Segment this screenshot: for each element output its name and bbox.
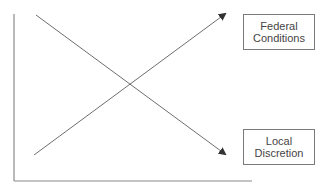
federal-label-line1: Federal (260, 20, 297, 32)
federal-conditions-box: Federal Conditions (243, 14, 315, 50)
local-discretion-box: Local Discretion (243, 129, 315, 165)
local-label-line2: Discretion (255, 147, 304, 159)
federal-label-line2: Conditions (253, 32, 305, 44)
local-label-line1: Local (266, 135, 292, 147)
